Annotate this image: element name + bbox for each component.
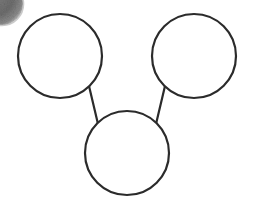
diagram-svg bbox=[0, 0, 253, 204]
node-top-right[interactable] bbox=[152, 14, 236, 98]
diagram-canvas bbox=[0, 0, 253, 204]
node-bottom-center[interactable] bbox=[85, 111, 169, 195]
node-top-left[interactable] bbox=[18, 14, 102, 98]
